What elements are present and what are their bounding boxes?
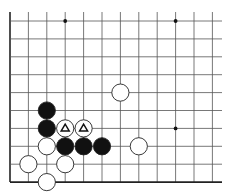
black-stone — [93, 138, 110, 155]
white-stone-icon — [75, 120, 92, 137]
star-point-icon — [174, 19, 178, 23]
black-stone-icon — [57, 138, 74, 155]
white-stone — [38, 138, 55, 155]
black-stone — [75, 138, 92, 155]
white-stone-icon — [112, 84, 129, 101]
white-stone-icon — [38, 138, 55, 155]
black-stone-icon — [38, 102, 55, 119]
white-stone-icon — [20, 156, 37, 173]
white-stone-icon — [57, 120, 74, 137]
white-stone — [20, 156, 37, 173]
white-stone-icon — [38, 174, 55, 191]
white-stone-icon — [130, 138, 147, 155]
star-point-icon — [174, 126, 178, 130]
go-board — [0, 0, 227, 192]
black-stone — [57, 138, 74, 155]
white-stone — [112, 84, 129, 101]
black-stone — [38, 102, 55, 119]
black-stone-icon — [38, 120, 55, 137]
black-stone-icon — [75, 138, 92, 155]
white-stone-icon — [57, 156, 74, 173]
black-stone — [38, 120, 55, 137]
white-stone — [57, 156, 74, 173]
white-stone — [38, 174, 55, 191]
black-stone-icon — [93, 138, 110, 155]
white-stone — [57, 120, 74, 137]
white-stone — [130, 138, 147, 155]
star-point-icon — [63, 19, 67, 23]
white-stone — [75, 120, 92, 137]
